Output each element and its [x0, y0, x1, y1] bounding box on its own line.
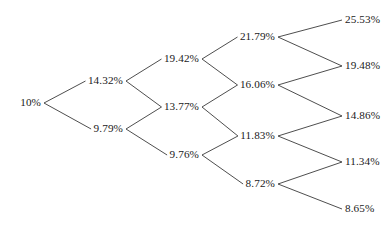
tree-node-n3_3: 8.72%: [246, 178, 275, 189]
tree-node-n2_1: 13.77%: [164, 101, 199, 112]
tree-node-n4_1: 19.48%: [345, 60, 380, 71]
tree-node-n4_4: 8.65%: [345, 203, 374, 214]
lattice-nodes: 10%14.32%9.79%19.42%13.77%9.76%21.79%16.…: [0, 0, 392, 225]
tree-node-n4_0: 25.53%: [345, 14, 380, 25]
tree-node-n2_0: 19.42%: [164, 53, 199, 64]
tree-node-n3_0: 21.79%: [240, 31, 275, 42]
tree-node-n1_0: 14.32%: [88, 75, 123, 86]
tree-node-n1_1: 9.79%: [94, 123, 123, 134]
tree-node-n3_2: 11.83%: [240, 130, 275, 141]
tree-node-n4_3: 11.34%: [345, 156, 380, 167]
binomial-tree-diagram: 10%14.32%9.79%19.42%13.77%9.76%21.79%16.…: [0, 0, 392, 225]
tree-node-n4_2: 14.86%: [345, 110, 380, 121]
tree-node-n2_2: 9.76%: [170, 149, 199, 160]
tree-node-n0_0: 10%: [20, 97, 41, 108]
tree-node-n3_1: 16.06%: [240, 79, 275, 90]
